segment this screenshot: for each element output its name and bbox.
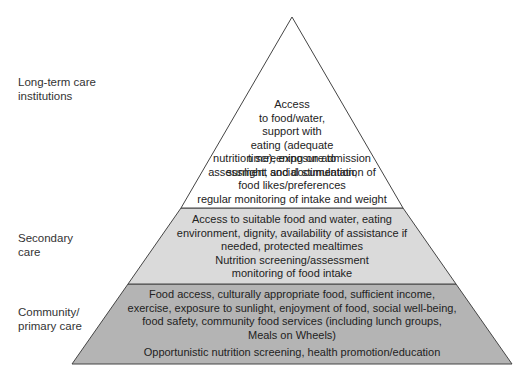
level-label-community: Community/ primary care [18,305,82,333]
level-label-secondary: Secondary care [18,231,73,259]
level-label-long-term: Long-term care institutions [18,75,96,103]
long-term-care-screening: nutrition screening on admission assessm… [172,152,412,206]
community-care-screening: Opportunistic nutrition screening, healt… [92,346,492,360]
community-care-items: Food access, culturally appropriate food… [92,288,492,342]
secondary-care-items: Access to suitable food and water, eatin… [142,213,442,281]
